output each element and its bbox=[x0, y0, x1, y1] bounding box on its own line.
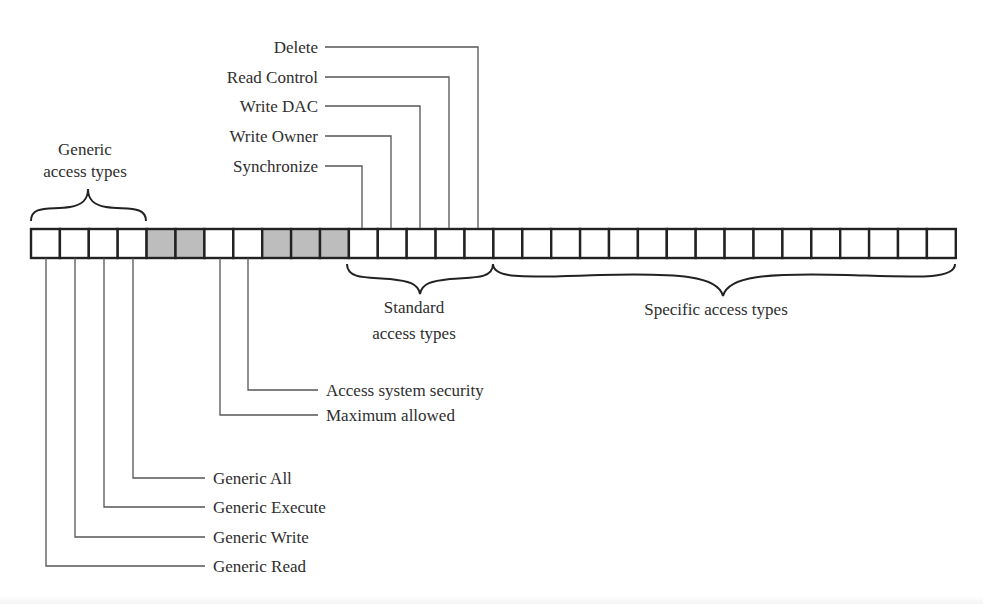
label-synchronize: Synchronize bbox=[233, 157, 318, 176]
bit-cell-specific bbox=[580, 229, 609, 258]
bit-cell-specific bbox=[638, 229, 667, 258]
label-write-owner: Write Owner bbox=[229, 127, 318, 146]
standard-group-label-line2: access types bbox=[372, 324, 456, 343]
bit-cell-generic bbox=[60, 229, 89, 258]
bit-cell-generic bbox=[31, 229, 60, 258]
bit-cell-specific bbox=[609, 229, 638, 258]
leader-delete bbox=[325, 47, 478, 228]
bit-cell-specific bbox=[869, 229, 898, 258]
bit-cell-standard bbox=[349, 229, 378, 258]
clipped-caption bbox=[0, 596, 983, 604]
label-maximum-allowed: Maximum allowed bbox=[326, 406, 455, 425]
generic-group-label-line1: Generic bbox=[58, 140, 112, 159]
bit-cell-reserved bbox=[262, 229, 291, 258]
top-labels: Delete Read Control Write DAC Write Owne… bbox=[227, 38, 318, 176]
specific-brace-icon bbox=[493, 264, 955, 296]
bit-cell-specific bbox=[811, 229, 840, 258]
bit-cell-specific bbox=[782, 229, 811, 258]
label-write-dac: Write DAC bbox=[240, 97, 318, 116]
bit-cell-specific bbox=[522, 229, 551, 258]
standard-brace-icon bbox=[347, 264, 493, 294]
bit-cell-special bbox=[233, 229, 262, 258]
specific-group-label: Specific access types bbox=[644, 300, 788, 319]
bit-cell-specific bbox=[898, 229, 927, 258]
bit-cell-standard bbox=[378, 229, 407, 258]
generic-group-label-line2: access types bbox=[43, 162, 127, 181]
label-read-control: Read Control bbox=[227, 68, 318, 87]
bit-cell-specific bbox=[551, 229, 580, 258]
label-generic-read: Generic Read bbox=[213, 557, 306, 576]
label-generic-all: Generic All bbox=[213, 469, 292, 488]
bit-cell-reserved bbox=[147, 229, 176, 258]
label-generic-execute: Generic Execute bbox=[213, 498, 326, 517]
bit-cell-reserved bbox=[320, 229, 349, 258]
bit-cell-reserved bbox=[291, 229, 320, 258]
bit-cell-specific bbox=[754, 229, 783, 258]
leader-read-control bbox=[325, 77, 449, 228]
leader-generic-read bbox=[46, 258, 205, 566]
bit-cell-specific bbox=[667, 229, 696, 258]
access-mask-diagram: Delete Read Control Write DAC Write Owne… bbox=[0, 0, 983, 604]
label-generic-write: Generic Write bbox=[213, 528, 309, 547]
bit-cell-standard bbox=[407, 229, 436, 258]
bit-cell-generic bbox=[118, 229, 147, 258]
leader-maximum-allowed bbox=[220, 258, 318, 415]
leader-generic-write bbox=[75, 258, 205, 537]
generic-brace-icon bbox=[31, 189, 146, 221]
generic-leaders bbox=[46, 258, 205, 566]
leader-generic-all bbox=[133, 258, 205, 478]
bit-cell-reserved bbox=[176, 229, 205, 258]
leader-write-owner bbox=[325, 136, 391, 228]
label-access-system-security: Access system security bbox=[326, 381, 484, 400]
label-delete: Delete bbox=[274, 38, 318, 57]
bit-cell-specific bbox=[493, 229, 522, 258]
standard-group-label-line1: Standard bbox=[384, 298, 445, 317]
bit-cell-specific bbox=[725, 229, 754, 258]
bit-cell-standard bbox=[465, 229, 494, 258]
bit-cell-special bbox=[204, 229, 233, 258]
bit-cell-specific bbox=[696, 229, 725, 258]
leader-generic-execute bbox=[104, 258, 205, 507]
bit-array bbox=[31, 229, 956, 258]
leader-synchronize bbox=[325, 166, 362, 228]
bit-cell-generic bbox=[89, 229, 118, 258]
bit-cell-specific bbox=[840, 229, 869, 258]
bit-cell-standard bbox=[436, 229, 465, 258]
leader-write-dac bbox=[325, 106, 420, 228]
leader-access-system-security bbox=[248, 258, 318, 390]
special-leaders bbox=[220, 258, 318, 415]
bit-cell-specific bbox=[927, 229, 956, 258]
top-leaders bbox=[325, 47, 478, 228]
